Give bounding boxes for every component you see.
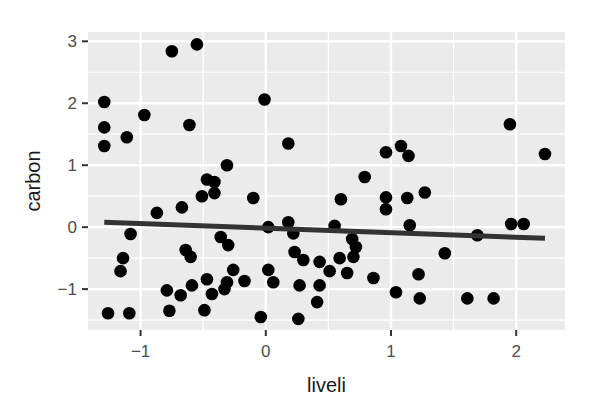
data-point xyxy=(218,283,231,296)
y-tick-label: 1 xyxy=(68,156,77,175)
data-point xyxy=(198,304,211,317)
data-point xyxy=(358,171,371,184)
y-tick-label: −1 xyxy=(58,280,77,299)
data-point xyxy=(403,219,416,232)
data-point xyxy=(539,148,552,161)
data-point xyxy=(504,118,517,131)
data-point xyxy=(254,311,267,324)
plot-panel xyxy=(88,32,565,330)
data-point xyxy=(196,190,209,203)
data-point xyxy=(208,176,221,189)
data-point xyxy=(227,264,240,277)
data-point xyxy=(292,313,305,326)
data-point xyxy=(186,279,199,292)
data-point xyxy=(166,45,179,58)
data-point xyxy=(98,121,111,134)
data-point xyxy=(262,264,275,277)
data-point xyxy=(174,289,187,302)
y-tick-label: 0 xyxy=(68,218,77,237)
data-point xyxy=(335,193,348,206)
data-point xyxy=(517,218,530,231)
data-point xyxy=(114,265,127,278)
x-tick-label: −1 xyxy=(131,342,150,361)
data-point xyxy=(313,256,326,269)
data-point xyxy=(311,296,324,309)
data-point xyxy=(208,187,221,200)
data-point xyxy=(390,286,403,299)
x-axis: −1012 xyxy=(131,330,521,361)
data-point xyxy=(487,292,500,305)
x-tick-label: 0 xyxy=(261,342,270,361)
data-point xyxy=(184,251,197,264)
data-point xyxy=(247,192,260,205)
data-point xyxy=(163,304,176,317)
data-point xyxy=(297,254,310,267)
data-point xyxy=(293,279,306,292)
y-axis-title: carbon xyxy=(22,150,44,211)
data-point xyxy=(267,276,280,289)
data-point xyxy=(380,191,393,204)
data-point xyxy=(323,265,336,278)
data-point xyxy=(282,137,295,150)
data-point xyxy=(461,292,474,305)
data-point xyxy=(439,247,452,260)
data-point xyxy=(221,159,234,172)
data-point xyxy=(201,273,214,286)
x-axis-title: liveli xyxy=(307,374,346,396)
data-point xyxy=(123,307,136,320)
data-point xyxy=(347,251,360,264)
data-point xyxy=(395,140,408,153)
data-point xyxy=(117,252,130,265)
data-point xyxy=(380,203,393,216)
data-point xyxy=(401,192,414,205)
data-point xyxy=(176,201,189,214)
data-point xyxy=(402,150,415,163)
data-point xyxy=(183,119,196,132)
data-point xyxy=(121,131,134,144)
data-point xyxy=(341,267,354,280)
y-tick-label: 2 xyxy=(68,94,77,113)
data-point xyxy=(98,140,111,153)
data-point xyxy=(412,268,425,281)
data-point xyxy=(367,272,380,285)
y-tick-label: 3 xyxy=(68,32,77,51)
data-point xyxy=(313,279,326,292)
data-point xyxy=(258,93,271,106)
data-point xyxy=(222,239,235,252)
data-point xyxy=(333,252,346,265)
data-point xyxy=(380,146,393,159)
y-axis: −10123 xyxy=(58,32,88,299)
x-tick-label: 1 xyxy=(386,342,395,361)
x-tick-label: 2 xyxy=(511,342,520,361)
data-point xyxy=(505,218,518,231)
data-point xyxy=(413,292,426,305)
scatter-plot: −1012 −10123 liveli carbon xyxy=(0,0,589,409)
data-point xyxy=(151,207,164,220)
data-point xyxy=(206,288,219,301)
data-point xyxy=(124,228,137,241)
data-point xyxy=(238,275,251,288)
data-point xyxy=(161,284,174,297)
data-point xyxy=(191,38,204,51)
data-point xyxy=(102,307,115,320)
data-point xyxy=(138,109,151,122)
data-point xyxy=(98,96,111,109)
data-point xyxy=(418,186,431,199)
